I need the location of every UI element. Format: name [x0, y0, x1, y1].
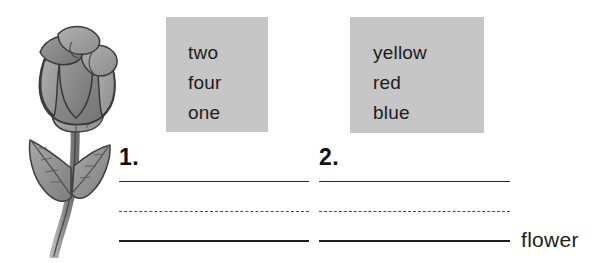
worksheet-page: two four one yellow red blue 1. 2. flowe… — [0, 0, 601, 263]
answer-block-1: 1. — [119, 144, 309, 170]
writing-rule-midline-dashed — [119, 211, 309, 212]
answer-block-2: 2. — [319, 144, 510, 170]
word-bank-list-2: yellow red blue — [373, 38, 427, 128]
word-bank-item: blue — [373, 98, 427, 128]
writing-rule-top — [119, 181, 309, 182]
word-bank-box-1: two four one — [166, 17, 268, 132]
writing-rule-baseline — [119, 240, 309, 242]
trailing-word-flower: flower — [521, 228, 579, 252]
writing-rule-midline-dashed — [319, 211, 510, 212]
word-bank-item: red — [373, 68, 427, 98]
rose-leaf-left — [30, 140, 71, 201]
word-bank-box-2: yellow red blue — [350, 17, 484, 133]
writing-lines-2[interactable] — [319, 181, 510, 244]
writing-lines-1[interactable] — [119, 181, 309, 244]
word-bank-item: yellow — [373, 38, 427, 68]
word-bank-list-1: two four one — [188, 38, 222, 128]
word-bank-item: four — [188, 68, 222, 98]
writing-rule-baseline — [319, 240, 510, 242]
word-bank-item: one — [188, 98, 222, 128]
item-number-2: 2. — [319, 144, 510, 170]
writing-rule-top — [319, 181, 510, 182]
word-bank-item: two — [188, 38, 222, 68]
item-number-1: 1. — [119, 144, 309, 170]
